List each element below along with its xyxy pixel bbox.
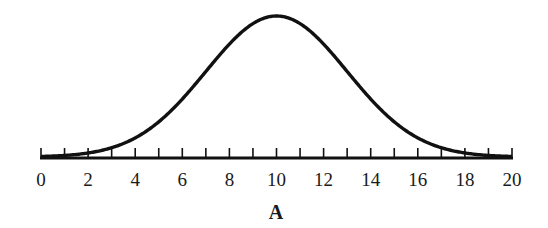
x-tick-label: 8 xyxy=(225,169,235,190)
x-tick-label: 6 xyxy=(178,169,188,190)
x-tick-label: 12 xyxy=(314,169,333,190)
x-tick-label: 4 xyxy=(130,169,140,190)
chart: 02468101214161820 A xyxy=(0,0,548,228)
bell-curve-line xyxy=(41,16,512,156)
x-tick-label: 14 xyxy=(361,169,381,190)
x-axis-tick-labels: 02468101214161820 xyxy=(36,169,521,190)
x-tick-label: 18 xyxy=(455,169,474,190)
distribution-curve xyxy=(41,16,512,156)
x-axis xyxy=(40,148,513,158)
x-tick-label: 2 xyxy=(83,169,93,190)
x-tick-label: 16 xyxy=(408,169,427,190)
x-tick-label: 0 xyxy=(36,169,46,190)
x-tick-label: 10 xyxy=(267,169,286,190)
x-tick-label: 20 xyxy=(503,169,522,190)
chart-title: A xyxy=(269,201,284,223)
